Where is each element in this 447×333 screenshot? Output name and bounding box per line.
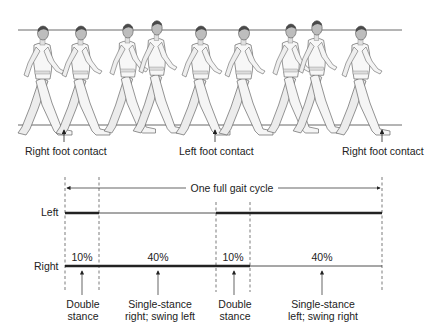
row-label-right: Right [34,260,59,272]
walking-figure-icon [133,21,184,133]
phase-label: left; swing right [288,310,358,322]
phase-dividers [65,177,382,292]
phase-label: Single-stance [128,298,192,310]
contact-label: Left foot contact [179,145,254,157]
percent-label: 40% [311,251,332,263]
walking-figure-icon [336,26,390,135]
walking-figures-panel: Right foot contact Left foot contact Rig… [18,21,424,157]
walking-figure-icon [219,26,273,135]
percent-label: 10% [71,251,92,263]
phase-label: Double [66,298,99,310]
walking-figure-icon [176,26,230,135]
percent-label: 40% [147,251,168,263]
cycle-label: One full gait cycle [191,182,274,194]
contact-label: Right foot contact [25,145,107,157]
gait-cycle-diagram: Right foot contact Left foot contact Rig… [0,0,447,333]
phase-label: Double [218,298,251,310]
contact-label: Right foot contact [342,145,424,157]
walking-figure-icon [293,21,344,133]
phase-label: right; swing left [125,310,195,322]
percent-label: 10% [222,251,243,263]
walking-figure-icon [56,26,110,135]
phase-label: stance [220,310,251,322]
phase-label: Single-stance [291,298,355,310]
phase-label: stance [68,310,99,322]
gait-timeline-panel: One full gait cycle Left 10% 40% 10% 40%… [34,177,382,322]
row-label-left: Left [41,206,59,218]
